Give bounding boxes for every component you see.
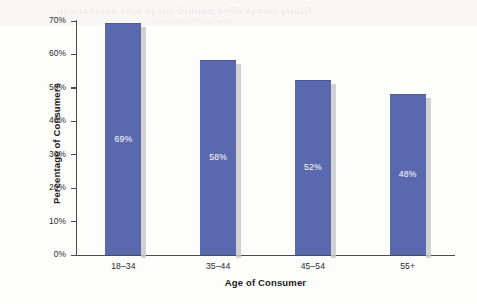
bleed-through-text: the reverse side of the printed page sho… [60, 2, 460, 18]
y-tick-label: 0% [28, 249, 66, 259]
y-tick-label: 20% [28, 182, 66, 192]
bar-value-label: 69% [105, 134, 141, 144]
x-tick-label: 35–44 [173, 261, 263, 271]
bar-group[interactable]: 52% [295, 81, 331, 255]
plot-area: 69%58%52%48% [76, 21, 455, 255]
y-tick-label: 10% [28, 216, 66, 226]
bar-group[interactable]: 69% [105, 24, 141, 255]
y-tick-label: 60% [28, 48, 66, 58]
x-tick-label: 18–34 [78, 261, 168, 271]
x-axis-title: Age of Consumer [76, 277, 455, 288]
bar-shadow [236, 64, 241, 258]
bar-chart-figure: the reverse side of the printed page sho… [0, 0, 477, 304]
y-tick-label: 50% [28, 82, 66, 92]
bar-value-label: 48% [390, 169, 426, 179]
x-axis-line [76, 255, 455, 256]
bar-group[interactable]: 48% [390, 95, 426, 255]
y-axis-title: Percentage of Consumers [51, 44, 62, 244]
bar-shadow [141, 27, 146, 258]
y-tick-label: 30% [28, 149, 66, 159]
bar-value-label: 58% [200, 152, 236, 162]
x-tick-label: 55+ [363, 261, 453, 271]
bar-value-label: 52% [295, 162, 331, 172]
bar-shadow [426, 98, 431, 258]
y-tick-label: 70% [28, 15, 66, 25]
y-tick-label: 40% [28, 115, 66, 125]
x-tick-label: 45–54 [268, 261, 358, 271]
bar-shadow [331, 84, 336, 258]
bar-group[interactable]: 58% [200, 61, 236, 255]
